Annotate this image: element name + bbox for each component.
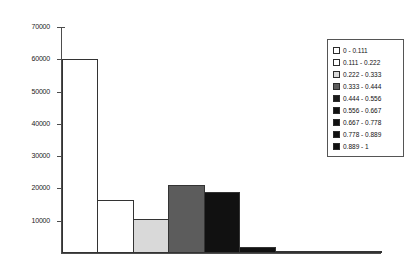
legend-label: 0.444 - 0.556 [343,95,381,102]
legend-swatch-icon [333,143,340,150]
y-axis-tick-label: 20000 [12,184,50,191]
legend-swatch-icon [333,59,340,66]
legend-label: 0.667 - 0.778 [343,119,381,126]
legend-label: 0.333 - 0.444 [343,83,381,90]
legend-swatch-icon [333,83,340,90]
legend-item: 0.889 - 1 [333,140,399,152]
bar-chart: 10000200003000040000500006000070000 0 - … [0,0,412,274]
bar [62,59,98,253]
legend-item: 0 - 0.111 [333,44,399,56]
legend-swatch-icon [333,119,340,126]
legend-item: 0.333 - 0.444 [333,80,399,92]
legend-swatch-icon [333,95,340,102]
legend-swatch-icon [333,47,340,54]
legend-item: 0.111 - 0.222 [333,56,399,68]
y-axis-tick-label: 70000 [12,23,50,30]
bar [239,247,275,253]
bar [168,185,204,253]
x-axis-line [61,253,381,254]
legend-item: 0.444 - 0.556 [333,92,399,104]
legend-item: 0.667 - 0.778 [333,116,399,128]
legend-swatch-icon [333,131,340,138]
legend-item: 0.556 - 0.667 [333,104,399,116]
bar [97,200,133,253]
y-axis-tick-label: 10000 [12,217,50,224]
bar [275,251,311,253]
y-axis-tick-label: 30000 [12,152,50,159]
legend-label: 0.222 - 0.333 [343,71,381,78]
y-axis-tick-label: 60000 [12,55,50,62]
legend-swatch-icon [333,71,340,78]
legend-item: 0.778 - 0.889 [333,128,399,140]
legend-label: 0 - 0.111 [343,47,368,54]
legend-label: 0.556 - 0.667 [343,107,381,114]
bar [346,251,382,253]
bar [204,192,240,253]
legend-label: 0.111 - 0.222 [343,59,380,66]
bar [133,219,169,253]
legend-label: 0.778 - 0.889 [343,131,381,138]
legend-swatch-icon [333,107,340,114]
bar [310,251,346,253]
legend-label: 0.889 - 1 [343,143,369,150]
legend-item: 0.222 - 0.333 [333,68,399,80]
legend: 0 - 0.1110.111 - 0.2220.222 - 0.3330.333… [327,39,404,157]
y-axis-tick-label: 50000 [12,88,50,95]
y-axis-tick-label: 40000 [12,120,50,127]
